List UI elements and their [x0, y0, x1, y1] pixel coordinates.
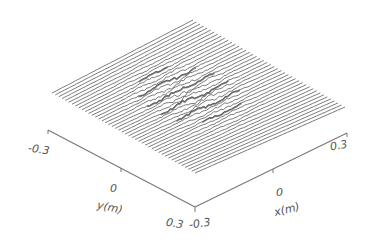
surface-mesh	[52, 20, 345, 173]
surface-profile-line	[192, 105, 342, 171]
surface-plot	[0, 0, 380, 249]
surface-profile-line	[185, 101, 334, 167]
y-tick-label-max: 0.3	[165, 217, 184, 231]
x-axis-line	[195, 133, 347, 207]
y-tick-label-min: -0.3	[27, 143, 50, 157]
x-tick-label-max: 0.3	[329, 139, 348, 153]
y-tick-label-mid: 0	[110, 183, 117, 194]
x-axis	[195, 133, 347, 207]
x-tick-label-mid: 0	[276, 187, 283, 198]
surface-profile-line	[188, 103, 338, 169]
surface-profile-line	[65, 28, 207, 100]
x-tick-label-min: -0.3	[188, 217, 211, 231]
